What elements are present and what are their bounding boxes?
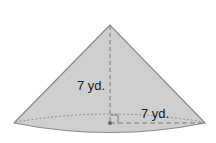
base-center-dot (108, 121, 112, 125)
height-label: 7 yd. (77, 79, 105, 92)
radius-label: 7 yd. (141, 107, 169, 120)
cone-diagram (0, 0, 216, 143)
